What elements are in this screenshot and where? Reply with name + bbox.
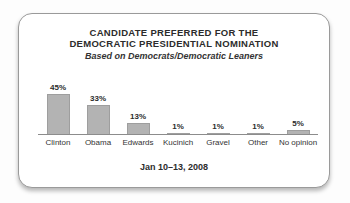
bar — [87, 105, 110, 134]
category-label: No opinion — [278, 138, 318, 147]
bar-column: 45% — [38, 83, 78, 134]
bar — [247, 133, 270, 135]
bar-value-label: 1% — [172, 122, 184, 131]
bar-value-label: 13% — [130, 112, 146, 121]
bar-value-label: 45% — [50, 83, 66, 92]
bar-value-label: 1% — [252, 122, 264, 131]
bar — [127, 123, 150, 134]
category-row: ClintonObamaEdwardsKucinichGravelOtherNo… — [38, 138, 318, 147]
chart-title-block: CANDIDATE PREFERRED FOR THE DEMOCRATIC P… — [19, 27, 329, 61]
bar-column: 5% — [278, 119, 318, 134]
bar-column: 1% — [198, 122, 238, 135]
category-label: Obama — [78, 138, 118, 147]
category-label: Kucinich — [158, 138, 198, 147]
chart-subtitle: Based on Democrats/Democratic Leaners — [19, 51, 329, 61]
bar — [47, 94, 70, 134]
category-label: Edwards — [118, 138, 158, 147]
bar-value-label: 33% — [90, 94, 106, 103]
category-label: Gravel — [198, 138, 238, 147]
chart-title-line-1: CANDIDATE PREFERRED FOR THE — [19, 27, 329, 38]
poll-chart-card: CANDIDATE PREFERRED FOR THE DEMOCRATIC P… — [18, 13, 330, 188]
bar-chart: 45%33%13%1%1%1%5% — [38, 77, 318, 135]
bar-column: 33% — [78, 94, 118, 134]
bar-column: 13% — [118, 112, 158, 134]
bar-column: 1% — [158, 122, 198, 135]
chart-title-line-2: DEMOCRATIC PRESIDENTIAL NOMINATION — [19, 38, 329, 49]
bar — [207, 133, 230, 135]
category-label: Clinton — [38, 138, 78, 147]
bar — [167, 133, 190, 135]
bar-value-label: 1% — [212, 122, 224, 131]
bar — [287, 130, 310, 134]
category-label: Other — [238, 138, 278, 147]
bar-column: 1% — [238, 122, 278, 135]
bar-value-label: 5% — [292, 119, 304, 128]
chart-date-label: Jan 10–13, 2008 — [19, 162, 329, 172]
